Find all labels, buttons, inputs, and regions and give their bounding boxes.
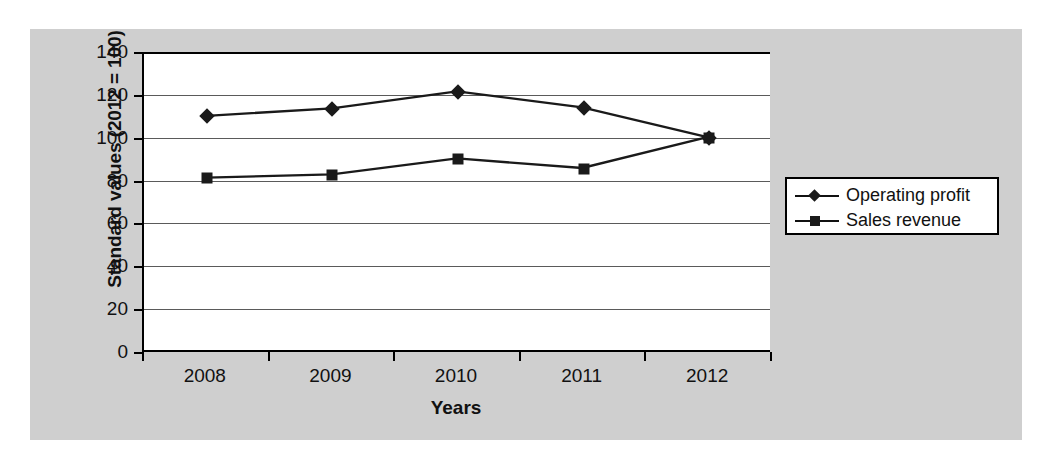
y-tick-label: 120 <box>36 84 128 106</box>
legend-item-operating-profit[interactable]: Operating profit <box>795 183 989 208</box>
y-tick-mark <box>134 352 142 354</box>
chart-figure-panel: Standard values (2012 = 100) 02040608010… <box>30 29 1022 440</box>
data-point-marker <box>201 173 212 184</box>
x-tick-label: 2012 <box>686 365 728 387</box>
x-tick-mark <box>770 352 772 361</box>
x-tick-mark <box>268 352 270 361</box>
data-point-marker <box>704 132 715 143</box>
diamond-marker-icon <box>795 188 839 204</box>
data-point-marker <box>453 154 464 165</box>
y-tick-mark <box>134 223 142 225</box>
x-tick-label: 2009 <box>309 365 351 387</box>
y-tick-label: 100 <box>36 127 128 149</box>
data-point-marker <box>327 170 338 181</box>
y-tick-mark <box>134 52 142 54</box>
square-marker-icon <box>795 213 839 229</box>
y-axis-tick-labels: 020406080100120140 <box>30 29 128 440</box>
y-tick-mark <box>134 181 142 183</box>
y-tick-label: 80 <box>36 170 128 192</box>
legend-label: Sales revenue <box>846 210 961 231</box>
y-tick-mark <box>134 266 142 268</box>
x-axis-title: Years <box>142 397 770 419</box>
x-tick-mark <box>519 352 521 361</box>
y-tick-label: 140 <box>36 41 128 63</box>
plot-area <box>142 52 770 352</box>
x-tick-label: 2008 <box>184 365 226 387</box>
y-tick-label: 20 <box>36 298 128 320</box>
data-point-marker <box>578 163 589 174</box>
x-tick-mark <box>142 352 144 361</box>
y-tick-mark <box>134 309 142 311</box>
chart-legend[interactable]: Operating profit Sales revenue <box>785 177 999 235</box>
y-tick-label: 40 <box>36 255 128 277</box>
x-tick-mark <box>644 352 646 361</box>
x-tick-mark <box>393 352 395 361</box>
y-tick-mark <box>134 138 142 140</box>
legend-label: Operating profit <box>846 185 970 206</box>
x-tick-label: 2010 <box>435 365 477 387</box>
y-tick-label: 0 <box>36 341 128 363</box>
y-tick-label: 60 <box>36 212 128 234</box>
legend-item-sales-revenue[interactable]: Sales revenue <box>795 208 989 233</box>
y-tick-mark <box>134 95 142 97</box>
x-tick-label: 2011 <box>561 365 602 387</box>
